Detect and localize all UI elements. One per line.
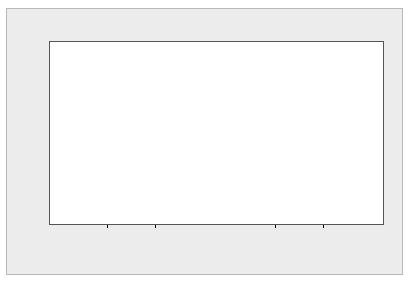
x-tick [155,225,156,228]
x-tick [323,225,324,228]
x-tick [275,225,276,228]
x-tick [107,225,108,228]
plot-area [49,41,384,225]
